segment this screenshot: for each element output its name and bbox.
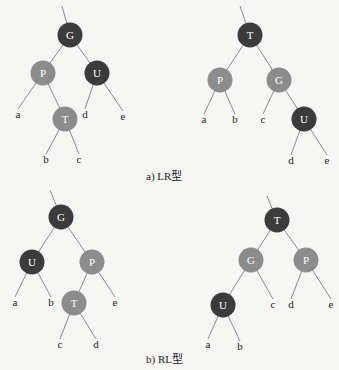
rotation-diagram: GPUTadebc TPGUabcde GUPTabecd TGPUcdeab <box>0 0 339 370</box>
node-label: P <box>40 67 46 79</box>
rl-type-tree-before: GUPTabecd <box>13 190 118 350</box>
leaf-label-b: b <box>48 296 54 308</box>
leaf-label-c: c <box>77 153 82 165</box>
tree-node-p: P <box>80 250 105 275</box>
tree-node-u: U <box>211 293 236 318</box>
tree-node-g: G <box>239 248 264 273</box>
tree-node-t: T <box>265 208 290 233</box>
node-label: P <box>217 74 223 86</box>
node-label: T <box>247 29 254 41</box>
leaf-label-d: d <box>288 154 294 166</box>
rl-type-tree-after: TGPUcdeab <box>206 196 334 352</box>
leaf-label-b: b <box>232 113 238 125</box>
leaf-label-e: e <box>329 298 334 310</box>
node-label: G <box>57 211 65 223</box>
node-label: T <box>62 113 69 125</box>
tree-node-t: T <box>62 291 87 316</box>
leaf-label-e: e <box>325 154 330 166</box>
tree-node-u: U <box>20 250 45 275</box>
leaf-label-c: c <box>261 113 266 125</box>
leaf-label-e: e <box>121 110 126 122</box>
leaf-label-a: a <box>206 338 211 350</box>
leaf-label-a: a <box>16 108 21 120</box>
node-label: T <box>274 214 281 226</box>
node-label: U <box>28 256 36 268</box>
tree-node-p: P <box>208 68 233 93</box>
lr-type-tree-after: TPGUabcde <box>202 6 330 166</box>
leaf-label-d: d <box>288 298 294 310</box>
node-label: U <box>93 67 101 79</box>
node-label: U <box>300 113 308 125</box>
tree-node-t: T <box>238 23 263 48</box>
node-label: T <box>71 297 78 309</box>
leaf-label-c: c <box>271 298 276 310</box>
node-label: G <box>275 74 283 86</box>
leaf-label-e: e <box>113 296 118 308</box>
leaf-label-c: c <box>58 338 63 350</box>
leaf-label-d: d <box>93 338 99 350</box>
node-label: U <box>219 299 227 311</box>
leaf-label-a: a <box>13 296 18 308</box>
tree-node-p: P <box>294 248 319 273</box>
node-label: P <box>89 256 95 268</box>
tree-node-u: U <box>292 107 317 132</box>
caption-rl-type: b) RL型 <box>146 350 183 366</box>
tree-node-t: T <box>53 107 78 132</box>
tree-node-p: P <box>31 61 56 86</box>
lr-type-tree-before: GPUTadebc <box>16 6 126 165</box>
leaf-label-a: a <box>202 113 207 125</box>
tree-node-g: G <box>49 205 74 230</box>
leaf-label-b: b <box>43 153 49 165</box>
leaf-label-d: d <box>82 108 88 120</box>
node-label: G <box>247 254 255 266</box>
leaf-label-b: b <box>237 340 243 352</box>
tree-node-g: G <box>58 23 83 48</box>
tree-node-g: G <box>267 68 292 93</box>
node-label: P <box>303 254 309 266</box>
caption-lr-type: a) LR型 <box>146 167 182 183</box>
tree-node-u: U <box>85 61 110 86</box>
node-label: G <box>66 29 74 41</box>
